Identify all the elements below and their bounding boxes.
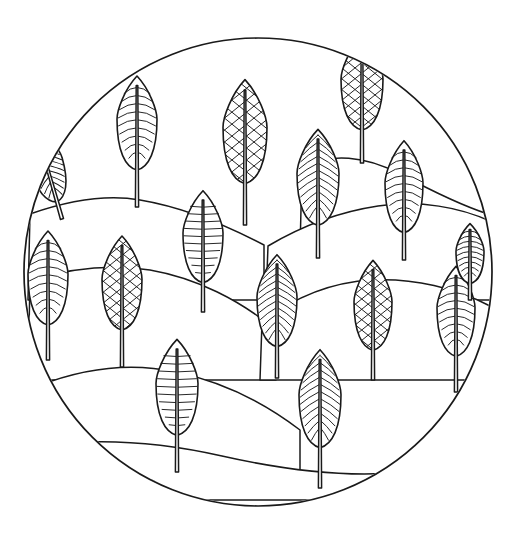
tree-left-crosshatch-trunk: [120, 245, 123, 367]
tree-center-lower-trunk: [275, 264, 278, 378]
tree-left-lower-trunk: [46, 240, 49, 360]
tree-upper-center-trunk: [243, 90, 246, 225]
tree-04-xh-a: [328, 0, 395, 36]
tree-04-xh-b: [328, 0, 395, 14]
tree-03-xh-b: [210, 0, 280, 22]
tree-upper-left-trunk: [135, 85, 138, 207]
tree-top-right-small-trunk: [468, 230, 471, 300]
tree-bottom-left-trunk: [175, 349, 178, 472]
tree-04-xh-b: [328, 0, 395, 25]
tree-03-xh-b: [210, 0, 280, 34]
tree-mid-right-trunk: [402, 150, 405, 260]
tree-04-xh-b: [328, 3, 395, 58]
tree-01-vein-diagL-1: [28, 133, 40, 145]
landscape-illustration: [0, 0, 518, 550]
tree-04-xh-b: [328, 0, 395, 35]
tree-right-crosshatch-trunk: [371, 269, 374, 380]
tree-mid-center-trunk: [316, 139, 319, 258]
tree-01-vein-diagL-6: [30, 160, 48, 174]
tree-01-vein-diagR-3: [40, 140, 56, 153]
tree-01-vein-diagL-3: [27, 144, 43, 157]
tree-01-vein-diagR-1: [37, 130, 49, 142]
tree-01-vein-diagL-5: [28, 154, 46, 168]
tree-bottom-center-trunk: [318, 359, 321, 488]
tree-04-xh-a: [328, 0, 395, 47]
tree-04-xh-b: [328, 0, 395, 46]
tree-01-vein-diagL-4: [27, 149, 44, 163]
tree-mid-left-center-trunk: [201, 200, 204, 312]
tree-far-right-trunk: [454, 275, 457, 392]
tree-01-vein-diagL-2: [27, 138, 41, 151]
tree-01-vein-diagR-2: [39, 135, 53, 148]
tree-04-xh-b: [328, 0, 395, 3]
tree-04-xh-a: [328, 3, 395, 58]
artboard: [0, 0, 518, 550]
